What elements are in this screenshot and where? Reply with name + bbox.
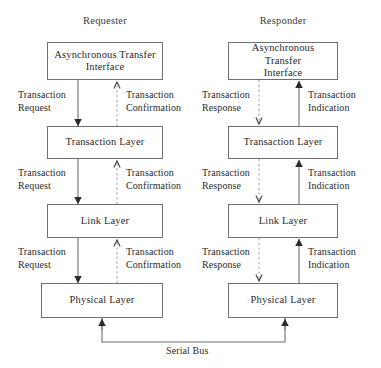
box-label: Link Layer bbox=[77, 215, 133, 228]
edge-label-responder-transaction-response-2: Transaction Response bbox=[202, 167, 250, 192]
box-requester-asynchronous-transfer-interface[interactable]: Asynchronous Transfer Interface bbox=[47, 42, 163, 80]
serial-bus-path bbox=[102, 318, 285, 342]
edge-label-responder-transaction-indication-2: Transaction Indication bbox=[308, 167, 356, 192]
column-header-requester: Requester bbox=[47, 15, 163, 26]
edge-label-line2: Confirmation bbox=[126, 180, 181, 193]
edge-label-responder-transaction-indication-3: Transaction Indication bbox=[308, 246, 356, 271]
box-responder-physical-layer[interactable]: Physical Layer bbox=[228, 283, 338, 318]
edge-label-requester-transaction-request-3: Transaction Request bbox=[18, 246, 66, 271]
edge-label-line1: Transaction bbox=[18, 89, 66, 100]
box-responder-transaction-layer[interactable]: Transaction Layer bbox=[228, 126, 338, 159]
box-label: Transaction Layer bbox=[240, 136, 327, 149]
edge-label-line2: Request bbox=[18, 180, 66, 193]
edge-label-line1: Transaction bbox=[308, 167, 356, 178]
edge-label-line1: Transaction bbox=[126, 246, 174, 257]
box-label-line1: Asynchronous Transfer bbox=[54, 49, 155, 60]
edge-label-line2: Indication bbox=[308, 180, 356, 193]
edge-label-requester-transaction-request-2: Transaction Request bbox=[18, 167, 66, 192]
edge-label-line1: Transaction bbox=[18, 246, 66, 257]
edge-label-requester-transaction-confirmation-1: Transaction Confirmation bbox=[126, 89, 181, 114]
edge-label-line1: Transaction bbox=[202, 167, 250, 178]
edge-label-line2: Indication bbox=[308, 259, 356, 272]
box-requester-physical-layer[interactable]: Physical Layer bbox=[41, 283, 163, 318]
edge-label-line2: Response bbox=[202, 180, 250, 193]
responder-connectors bbox=[259, 80, 299, 283]
edge-label-requester-transaction-confirmation-2: Transaction Confirmation bbox=[126, 167, 181, 192]
edge-label-line2: Request bbox=[18, 102, 66, 115]
edge-label-line2: Confirmation bbox=[126, 102, 181, 115]
box-label: Physical Layer bbox=[66, 294, 139, 307]
requester-connectors bbox=[78, 80, 117, 283]
edge-label-responder-transaction-indication-1: Transaction Indication bbox=[308, 89, 356, 114]
protocol-stack-diagram: Requester Responder Asynchronous Transfe… bbox=[0, 0, 381, 368]
edge-label-line1: Transaction bbox=[18, 167, 66, 178]
edge-label-line2: Indication bbox=[308, 102, 356, 115]
edge-label-requester-transaction-confirmation-3: Transaction Confirmation bbox=[126, 246, 181, 271]
box-label: Physical Layer bbox=[247, 294, 320, 307]
box-label: Asynchronous Transfer Interface bbox=[50, 49, 159, 74]
edge-label-line1: Transaction bbox=[308, 89, 356, 100]
column-header-responder: Responder bbox=[228, 15, 338, 26]
edge-label-responder-transaction-response-1: Transaction Response bbox=[202, 89, 250, 114]
box-label: Asynchronous Transfer Interface bbox=[229, 42, 337, 80]
edge-label-line2: Confirmation bbox=[126, 259, 181, 272]
box-requester-link-layer[interactable]: Link Layer bbox=[47, 204, 163, 238]
serial-bus-connector bbox=[102, 318, 285, 342]
edge-label-line1: Transaction bbox=[126, 167, 174, 178]
edge-label-line2: Response bbox=[202, 259, 250, 272]
box-label: Transaction Layer bbox=[62, 136, 149, 149]
edge-label-responder-transaction-response-3: Transaction Response bbox=[202, 246, 250, 271]
box-label-line2: Interface bbox=[86, 61, 125, 72]
box-requester-transaction-layer[interactable]: Transaction Layer bbox=[47, 126, 163, 159]
box-label-line1: Asynchronous Transfer bbox=[252, 42, 314, 66]
edge-label-line1: Transaction bbox=[202, 246, 250, 257]
box-label: Link Layer bbox=[255, 215, 311, 228]
box-responder-asynchronous-transfer-interface[interactable]: Asynchronous Transfer Interface bbox=[228, 42, 338, 80]
edge-label-line1: Transaction bbox=[308, 246, 356, 257]
edge-label-requester-transaction-request-1: Transaction Request bbox=[18, 89, 66, 114]
box-responder-link-layer[interactable]: Link Layer bbox=[228, 204, 338, 238]
edge-label-line2: Response bbox=[202, 102, 250, 115]
edge-label-line2: Request bbox=[18, 259, 66, 272]
serial-bus-label: Serial Bus bbox=[166, 345, 208, 356]
edge-label-line1: Transaction bbox=[202, 89, 250, 100]
edge-label-line1: Transaction bbox=[126, 89, 174, 100]
box-label-line2: Interface bbox=[264, 67, 303, 78]
